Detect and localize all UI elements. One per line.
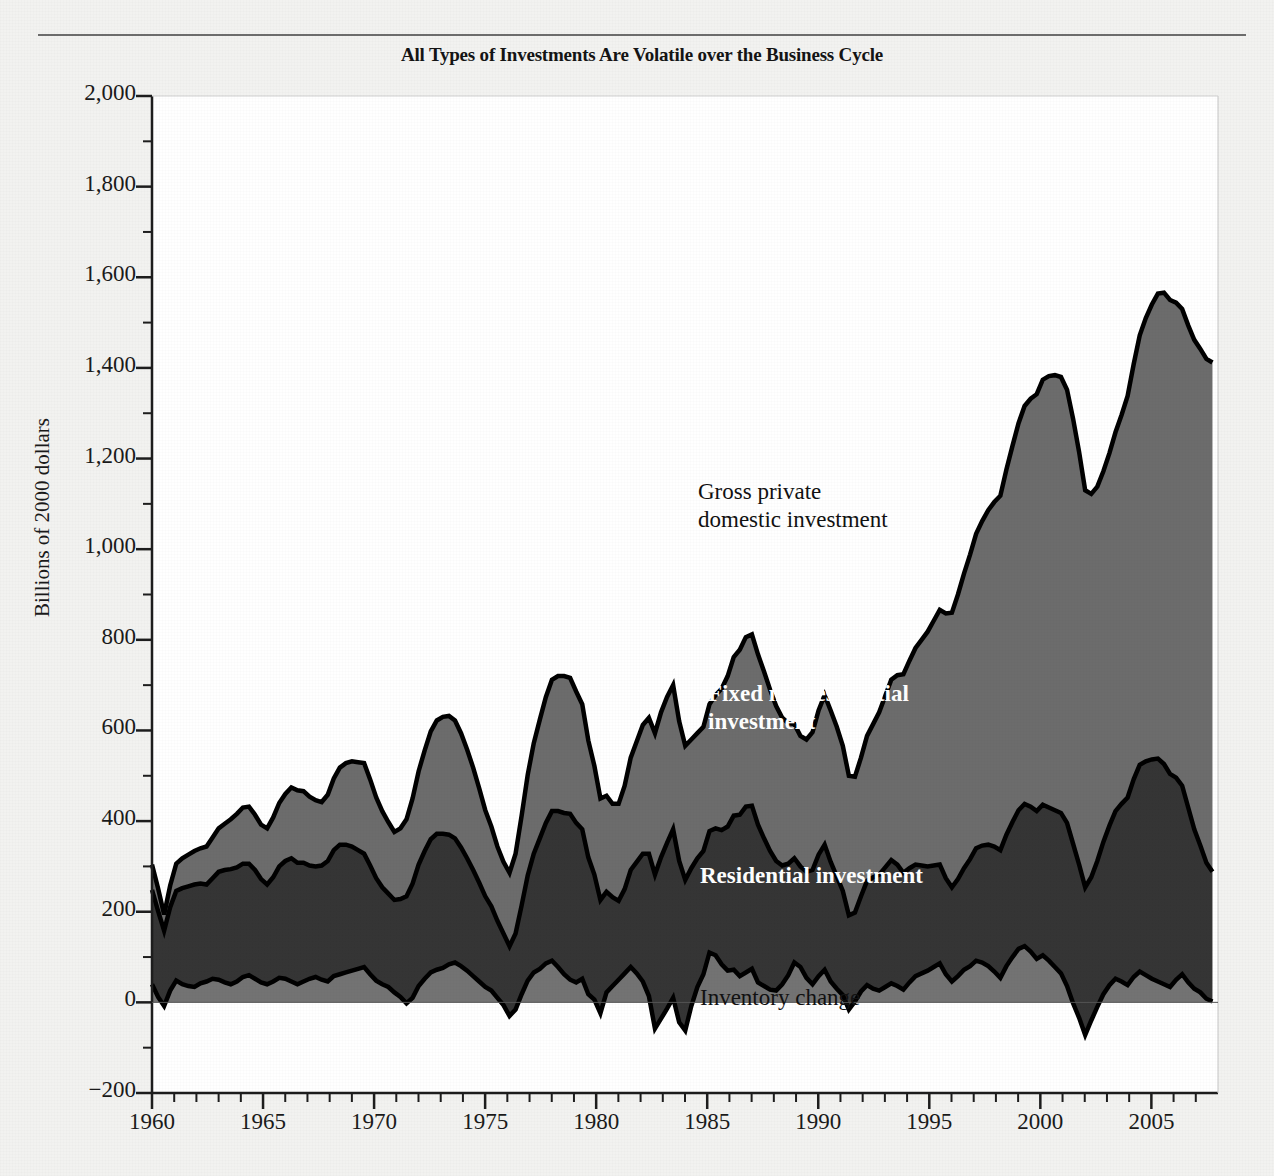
series-label-inventory-change: Inventory change bbox=[700, 984, 860, 1012]
series-label-fixed-nonresidential-investment: Fixed nonresidential investment bbox=[708, 680, 909, 736]
series-label-residential-investment: Residential investment bbox=[700, 862, 923, 890]
chart-plot-area bbox=[0, 0, 1274, 1176]
figure-container: All Types of Investments Are Volatile ov… bbox=[0, 0, 1274, 1176]
series-label-gross-private-domestic-investment: Gross private domestic investment bbox=[698, 478, 888, 534]
